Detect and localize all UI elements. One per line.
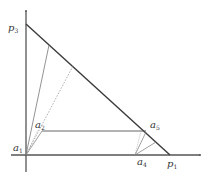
hypotenuse-p3-p1 (26, 24, 170, 155)
label-a2: a2 (35, 119, 45, 131)
label-a5: a5 (150, 119, 160, 131)
ray-solid (26, 45, 49, 155)
label-a1: a1 (13, 142, 23, 154)
segment-a1-a2-dotted (26, 130, 38, 155)
y-axis-tip (25, 10, 27, 12)
label-p1: p1 (167, 158, 177, 170)
x-axis-tip (199, 154, 201, 156)
simplex-diagram: p3 p1 a1 a2 a4 a5 (0, 0, 212, 176)
segment-a4-a5-dotted (135, 131, 141, 155)
label-p3: p3 (8, 22, 18, 34)
ray-dotted (26, 66, 73, 155)
label-a4: a4 (137, 156, 147, 168)
